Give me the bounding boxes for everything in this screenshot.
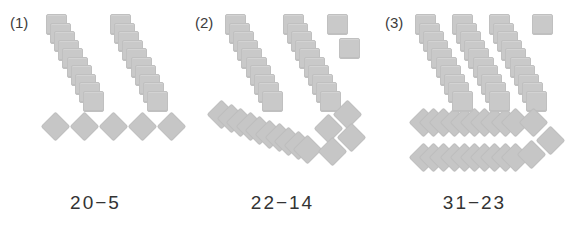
unit-square — [262, 91, 283, 112]
unit-square — [147, 91, 168, 112]
unit-square — [83, 91, 104, 112]
block-figure-1 — [0, 0, 191, 178]
equation-label: 31−23 — [375, 192, 574, 214]
problem-panel-3: (3) 31−23 — [375, 0, 574, 226]
problem-panel-1: (1) 20−5 — [0, 0, 191, 226]
block-figure-2 — [185, 0, 380, 178]
loose-diamond — [99, 112, 129, 142]
equation-label: 20−5 — [0, 192, 191, 214]
unit-square — [489, 91, 510, 112]
loose-diamond — [41, 112, 71, 142]
unit-square — [526, 91, 547, 112]
loose-square — [339, 38, 360, 59]
worksheet-diagram: (1) 20−5 (2) 22−14 (3) 31−23 — [0, 0, 574, 226]
loose-diamond — [128, 112, 158, 142]
block-figure-3 — [375, 0, 574, 178]
unit-square — [452, 91, 473, 112]
loose-diamond — [157, 112, 187, 142]
loose-diamond — [70, 112, 100, 142]
equation-label: 22−14 — [185, 192, 380, 214]
problem-panel-2: (2) 22−14 — [185, 0, 380, 226]
loose-square — [532, 14, 553, 35]
loose-square — [327, 14, 348, 35]
